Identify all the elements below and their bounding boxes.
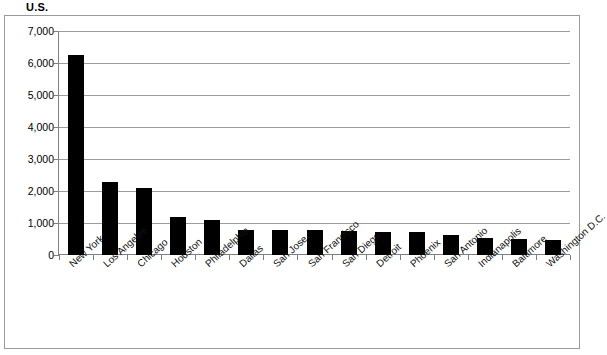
y-axis-tick-label: 6,000 <box>2 58 54 68</box>
y-axis-tick-label: 7,000 <box>2 26 54 36</box>
bars-layer <box>59 31 570 255</box>
x-axis-tick-mark <box>434 255 435 260</box>
x-axis-tick-mark <box>127 255 128 260</box>
x-axis-tick-mark <box>195 255 196 260</box>
x-axis-tick-mark <box>400 255 401 260</box>
x-axis-tick-mark <box>468 255 469 260</box>
chart-title: U.S. <box>26 0 48 14</box>
x-axis-labels: New YorkLos AngelesChicagoHoustonPhilade… <box>59 261 570 351</box>
x-axis-tick-mark <box>332 255 333 260</box>
x-axis-tick-mark <box>297 255 298 260</box>
y-axis-tick-label: 2,000 <box>2 186 54 196</box>
y-axis: 7,0006,0005,0004,0003,0002,0001,0000 <box>0 31 54 255</box>
x-axis-tick-mark <box>366 255 367 260</box>
y-axis-tick-label: 5,000 <box>2 90 54 100</box>
x-axis-tick-mark <box>161 255 162 260</box>
bar <box>68 55 84 255</box>
x-axis-tick-mark <box>93 255 94 260</box>
x-axis-tick-mark <box>229 255 230 260</box>
bar <box>102 182 118 255</box>
x-axis-tick-mark <box>263 255 264 260</box>
y-axis-tick-label: 4,000 <box>2 122 54 132</box>
bar <box>136 188 152 255</box>
y-axis-tick-label: 1,000 <box>2 218 54 228</box>
y-axis-tick-label: 3,000 <box>2 154 54 164</box>
x-axis-tick-mark <box>536 255 537 260</box>
x-axis-tick-mark <box>570 255 571 260</box>
y-axis-tick-label: 0 <box>2 250 54 260</box>
x-axis-tick-mark <box>59 255 60 260</box>
x-axis-tick-mark <box>502 255 503 260</box>
